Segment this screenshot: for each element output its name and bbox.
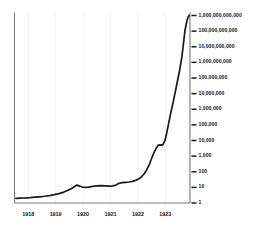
x-tick-label: 1918 [22, 212, 34, 217]
x-tick-label: 1921 [104, 212, 116, 217]
y-tick-label: 100,000,000 [199, 75, 228, 80]
y-tick-label: 10,000,000,000 [199, 44, 235, 49]
x-tick-label: 1922 [132, 212, 144, 217]
y-axis-tick-marks [192, 16, 197, 204]
y-tick-label: 1,000 [199, 154, 212, 159]
y-tick-label: 10,000 [199, 138, 215, 143]
x-tick-label: 1923 [159, 212, 171, 217]
data-series-lines [16, 16, 189, 199]
y-tick-label: 1,000,000,000,000 [199, 13, 242, 18]
y-tick-label: 1 [199, 200, 202, 205]
x-tick-label: 1919 [50, 212, 62, 217]
axis-spines [15, 13, 191, 204]
x-tick-label: 1920 [77, 212, 89, 217]
y-tick-label: 100,000 [199, 122, 218, 127]
chart-container: 1,000,000,000,000100,000,000,00010,000,0… [0, 0, 256, 238]
y-tick-label: 100 [199, 169, 208, 174]
y-tick-label: 10,000,000 [199, 91, 225, 96]
y-tick-label: 100,000,000,000 [199, 29, 238, 34]
chart-plot-area [0, 0, 256, 238]
y-tick-label: 1,000,000,000 [199, 60, 232, 65]
y-tick-label: 10 [199, 185, 205, 190]
series-line [16, 16, 189, 199]
y-tick-label: 1,000,000 [199, 107, 222, 112]
